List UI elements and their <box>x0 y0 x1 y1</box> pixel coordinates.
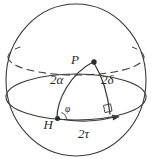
sphere-diagram-svg: P H 2α 2δ 2τ φ <box>0 0 156 159</box>
right-angle-icon <box>104 104 113 113</box>
point-h-dot <box>55 116 60 121</box>
point-h-label: H <box>43 117 54 132</box>
arc-left-label: 2α <box>50 72 65 87</box>
point-p-label: P <box>70 52 79 67</box>
point-p-dot <box>91 59 96 64</box>
sphere-diagram-container: P H 2α 2δ 2τ φ <box>0 0 156 159</box>
arc-base-label: 2τ <box>78 126 91 141</box>
arc-right-label: 2δ <box>101 72 115 87</box>
arc-h-to-p-left <box>57 62 93 118</box>
angle-phi-label: φ <box>65 104 70 114</box>
latitude-ellipse-dashed-left-tail <box>8 46 23 57</box>
equator-ellipse <box>6 74 146 120</box>
arc-p-to-base-right <box>94 63 110 114</box>
